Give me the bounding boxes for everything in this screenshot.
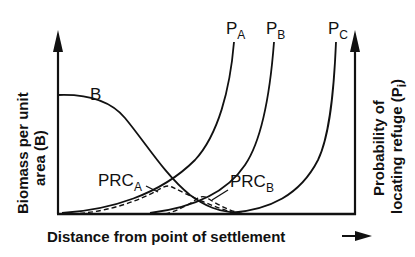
label-pc: PC [328,19,348,42]
left-axis-title-line1: Biomass per unit [14,92,31,214]
prcb-pointer [212,190,228,200]
left-axis-title-line2: area (B) [31,130,48,186]
left-axis-arrow-icon [53,30,63,52]
label-prca: PRCA [98,171,142,194]
label-b: B [90,85,101,104]
label-prcb: PRCB [230,172,274,195]
refuge-biomass-diagram: B PA PB PC PRCA PRCB Biomass per unit ar… [0,0,415,257]
x-axis-title: Distance from point of settlement [47,228,285,245]
label-pa: PA [226,19,245,42]
label-pb: PB [266,19,285,42]
x-axis-arrow-icon [342,231,372,241]
right-axis-title-line2: locating refuge (Pi) [388,79,409,214]
right-axis-title-line1: Probability of [370,99,387,196]
right-axis-arrow-icon [350,30,360,52]
